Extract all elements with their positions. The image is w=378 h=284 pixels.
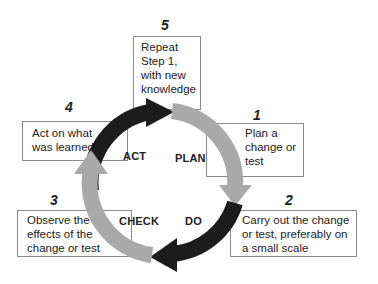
phase-label-do: DO bbox=[185, 215, 202, 227]
check-arrow-icon bbox=[74, 150, 152, 255]
act-arrow-icon bbox=[91, 98, 174, 191]
phase-label-check: CHECK bbox=[119, 215, 159, 227]
phase-label-act: ACT bbox=[123, 150, 146, 162]
phase-label-plan: PLAN bbox=[175, 152, 206, 164]
do-arrow-icon bbox=[150, 203, 235, 272]
pdca-cycle-arrows bbox=[0, 0, 378, 284]
